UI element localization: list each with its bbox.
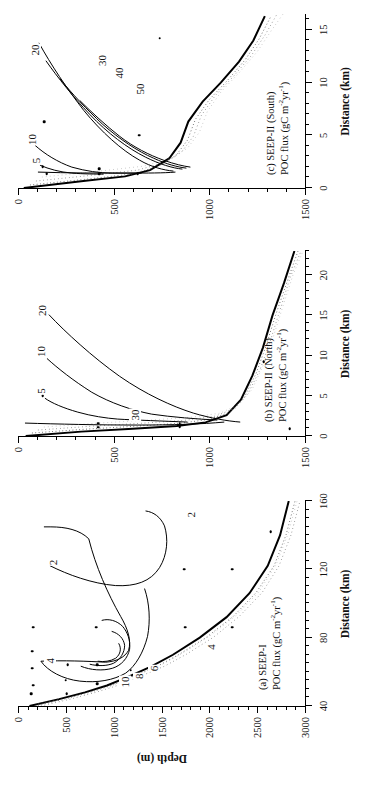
panel-b-xtick-minor xyxy=(305,266,309,267)
panel-a-ylabel-1: 500 xyxy=(60,717,71,733)
panel-a-xtick-minor xyxy=(305,654,309,655)
panel-a-contour-10 xyxy=(98,643,121,661)
panel-a-contour-label-6: 6 xyxy=(148,665,160,673)
panel-a-ytick-minor xyxy=(190,706,191,710)
panel-c-xtick-0 xyxy=(305,187,312,188)
panel-a-xlabel-0: 40 xyxy=(318,701,329,712)
panel-b-xtick-minor xyxy=(305,339,309,340)
panel-a-xtick-minor xyxy=(305,509,309,510)
panel-a-sample-point xyxy=(31,650,34,653)
panel-a-xtick-minor xyxy=(305,594,309,595)
panel-b-caption: (b) SEEP-II (North) POC flux (gC m-2yr-1… xyxy=(262,329,289,422)
panel-c-sample-point xyxy=(45,172,48,175)
panel-a-contour-4-riser xyxy=(44,527,89,539)
panel-b-sample-point xyxy=(97,422,100,425)
panel-a-ylabel-3: 1500 xyxy=(156,717,167,738)
panel-c-xtick-minor xyxy=(305,145,309,146)
panel-c-seep-ii-south: 0 5 10 15 0 500 1000 1500 xyxy=(18,14,306,189)
panel-a-xtick-minor xyxy=(305,662,309,663)
panel-a-xtick-minor xyxy=(305,679,309,680)
panel-a-ylabel-5: 2500 xyxy=(252,717,263,738)
panel-b-plot-frame: 0 5 10 15 20 0 500 1000 1500 xyxy=(18,251,306,437)
panel-b-contour-label-5: 5 xyxy=(35,387,47,395)
panel-b-xtick-minor xyxy=(305,290,309,291)
panel-c-caption: (c) SEEP-II (South) POC flux (gC m-2yr-1… xyxy=(264,82,291,175)
panel-a-ytick-1000 xyxy=(114,706,115,713)
panel-b-xtick-minor xyxy=(305,258,309,259)
panel-a-sample-point xyxy=(130,669,133,672)
panel-a-ytick-minor xyxy=(228,706,229,710)
panel-a-ytick-minor xyxy=(28,706,29,710)
panel-c-units-sup1: -2 xyxy=(277,100,285,106)
panel-a-ytick-minor xyxy=(267,706,268,710)
panel-a-seafloor xyxy=(29,501,288,706)
panel-c-xtick-minor xyxy=(305,50,309,51)
panel-a-xtick-minor xyxy=(305,534,309,535)
panel-a-contour-label-4b: 4 xyxy=(205,643,217,651)
panel-b-units-sup2: -1 xyxy=(275,332,283,338)
panel-b-contour-label-30: 30 xyxy=(129,409,141,422)
panel-c-ytick-minor xyxy=(228,188,229,192)
panel-b-ytick-minor xyxy=(37,436,38,440)
panel-b-ylabel-0: 0 xyxy=(13,447,24,452)
panel-c-ytick-minor xyxy=(75,188,76,192)
panel-a-caption-title: (a) SEEP-I xyxy=(256,597,269,690)
panel-a-ytick-minor xyxy=(37,706,38,710)
panel-a-xtick-minor xyxy=(305,620,309,621)
panel-a-ytick-minor xyxy=(95,706,96,710)
panel-c-units-c: ) xyxy=(279,82,290,86)
panel-a-xtick-minor xyxy=(305,577,309,578)
panel-c-xtick-minor xyxy=(305,39,309,40)
panel-b-xtick-minor xyxy=(305,347,309,348)
panel-a-ytick-minor xyxy=(200,706,201,710)
panel-b-ytick-minor xyxy=(56,436,57,440)
panel-a-units-b: yr xyxy=(271,606,282,615)
panel-a-ytick-minor xyxy=(75,706,76,710)
panel-a-contour-label-10: 10 xyxy=(119,676,131,689)
panel-a-xtick-120 xyxy=(305,568,312,569)
panel-a-units-sup1: -2 xyxy=(269,615,277,621)
panel-c-contour-label-5: 5 xyxy=(30,157,42,165)
panel-c-sample-point xyxy=(98,168,101,171)
panel-c-sediment-line-2 xyxy=(36,14,277,181)
panel-c-ylabel-2: 1000 xyxy=(204,199,215,220)
panel-c-contour-label-10: 10 xyxy=(26,133,38,146)
panel-c-xtick-minor xyxy=(305,176,309,177)
panel-c-caption-units: POC flux (gC m-2yr-1) xyxy=(277,82,291,175)
panel-a-ytick-minor xyxy=(295,706,296,710)
panel-b-contour-20 xyxy=(49,315,240,422)
panel-b-ytick-minor xyxy=(152,436,153,440)
panel-a-ytick-minor xyxy=(47,706,48,710)
panel-b-xtick-minor xyxy=(305,330,309,331)
panel-a-ytick-minor xyxy=(248,706,249,710)
panel-c-plot-frame: 0 5 10 15 0 500 1000 1500 xyxy=(18,14,306,189)
panel-b-ytick-minor xyxy=(171,436,172,440)
figure-poc-flux-cross-sections: 40 80 120 160 xyxy=(0,0,375,789)
panel-c-xtick-minor xyxy=(305,60,309,61)
panel-b-xtick-minor xyxy=(305,306,309,307)
panel-a-ytick-minor xyxy=(133,706,134,710)
panel-b-ylabel-1: 500 xyxy=(108,447,119,463)
panel-b-xtick-minor xyxy=(305,371,309,372)
panel-a-units-a: POC flux (gC m xyxy=(271,621,282,690)
panel-a-contour-label-8: 8 xyxy=(133,672,145,680)
panel-b-ytick-minor xyxy=(75,436,76,440)
panel-a-yaxis-title: Depth (m) xyxy=(137,753,187,765)
panel-b-xtick-minor xyxy=(305,250,309,251)
panel-c-xtick-minor xyxy=(305,124,309,125)
panel-c-xtick-minor xyxy=(305,18,309,19)
panel-b-ytick-0 xyxy=(18,436,19,443)
panel-a-ytick-minor xyxy=(104,706,105,710)
panel-b-xtick-minor xyxy=(305,363,309,364)
panel-b-sample-point xyxy=(178,425,181,428)
panel-c-ytick-minor xyxy=(286,188,287,192)
panel-c-xlabel-0: 0 xyxy=(318,185,329,190)
panel-b-sample-point xyxy=(97,426,100,429)
panel-c-xtick-minor xyxy=(305,113,309,114)
panel-a-xtick-minor xyxy=(305,526,309,527)
panel-c-ylabel-1: 500 xyxy=(108,199,119,215)
panel-b-xtick-5 xyxy=(305,395,312,396)
panel-c-xtick-minor xyxy=(305,155,309,156)
panel-c-ytick-500 xyxy=(114,188,115,195)
panel-b-ytick-minor xyxy=(228,436,229,440)
